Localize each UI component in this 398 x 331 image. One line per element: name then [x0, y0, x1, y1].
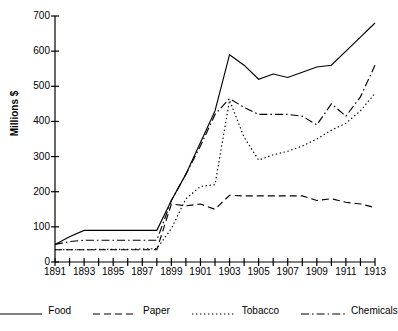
y-tick-label: 400 [14, 116, 50, 126]
y-tick-label: 300 [14, 152, 50, 162]
legend-swatch-chemicals [301, 305, 345, 315]
y-tick-label: 600 [14, 46, 50, 56]
legend-item-chemicals[interactable]: Chemicals [301, 305, 398, 316]
x-tick-label: 1913 [355, 266, 395, 277]
chart-svg [55, 16, 375, 262]
series-line-tobacco [55, 93, 375, 249]
y-tick-label: 100 [14, 222, 50, 232]
legend-label: Food [48, 305, 71, 316]
y-tick-label: 500 [14, 81, 50, 91]
x-axis-tick-labels: 1891189318951897189919011903190519071909… [0, 266, 396, 282]
legend-swatch-paper [93, 305, 137, 315]
legend-item-tobacco[interactable]: Tobacco [192, 305, 279, 316]
legend-swatch-tobacco [192, 305, 236, 315]
y-tick-label: 700 [14, 11, 50, 21]
legend-label: Chemicals [351, 305, 398, 316]
legend-item-paper[interactable]: Paper [93, 305, 170, 316]
plot-area [55, 16, 375, 262]
legend-label: Paper [143, 305, 170, 316]
legend-label: Tobacco [242, 305, 279, 316]
series-line-chemicals [55, 65, 375, 244]
legend-swatch-food [0, 305, 42, 315]
legend-item-food[interactable]: Food [0, 305, 71, 316]
y-tick-label: 200 [14, 187, 50, 197]
chart-legend: FoodPaperTobaccoChemicals [0, 300, 396, 320]
series-line-food [55, 23, 375, 244]
series-line-paper [55, 195, 375, 249]
